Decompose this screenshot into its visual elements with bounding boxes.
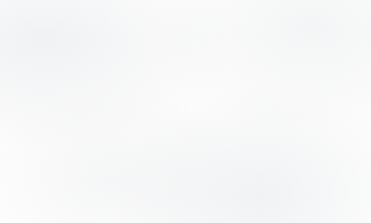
- leader-line-other-asian: [230, 48, 244, 62]
- leader-line-other: [197, 24, 210, 38]
- pie-label-asian-british-asian: Asian/British Asian: [260, 78, 349, 89]
- pie-label-other-asian: Other Asian: [227, 36, 283, 47]
- pie-chart-figure: White Other Other Asian Chinese Asian/Br…: [0, 0, 371, 223]
- pie-label-black-black-british: Black/Black British: [260, 93, 348, 104]
- pie-label-white: White: [14, 116, 41, 127]
- pie-chart-svg: [0, 0, 371, 223]
- pie-label-other: Other: [192, 12, 219, 23]
- pie-slices-group: [71, 30, 253, 212]
- pie-label-chinese: Chinese: [250, 62, 289, 73]
